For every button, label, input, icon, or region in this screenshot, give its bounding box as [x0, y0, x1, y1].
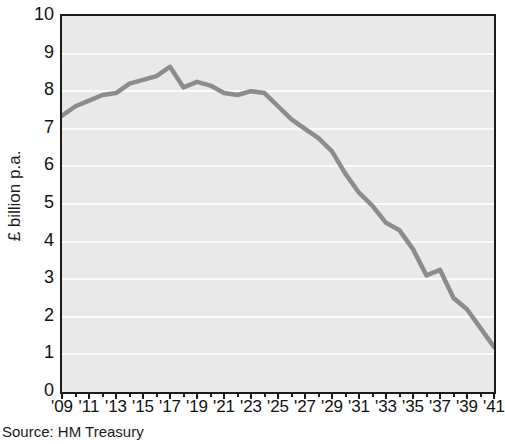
source-note: Source: HM Treasury — [2, 423, 144, 440]
x-tick-mark — [183, 392, 185, 397]
y-tick-label: 8 — [28, 80, 54, 98]
x-tick-mark — [75, 392, 77, 397]
x-tick-mark — [426, 392, 428, 397]
x-axis-ticklabels: '09'11'13'15'17'19'21'23'25'27'29'31'33'… — [0, 398, 503, 422]
x-tick-label: '27 — [294, 398, 316, 415]
x-tick-mark — [318, 392, 320, 397]
y-tick-label: 9 — [28, 43, 54, 61]
x-tick-label: '29 — [321, 398, 343, 415]
x-tick-mark — [291, 392, 293, 397]
x-tick-mark — [102, 392, 104, 397]
x-tick-mark — [453, 392, 455, 397]
x-tick-label: '37 — [429, 398, 451, 415]
y-tick-label: 5 — [28, 193, 54, 211]
x-tick-mark — [237, 392, 239, 397]
x-tick-label: '09 — [51, 398, 73, 415]
x-tick-mark — [480, 392, 482, 397]
x-tick-label: '31 — [348, 398, 370, 415]
x-tick-mark — [210, 392, 212, 397]
x-tick-label: '33 — [375, 398, 397, 415]
x-tick-mark — [264, 392, 266, 397]
x-tick-label: '23 — [240, 398, 262, 415]
x-tick-label: '41 — [483, 398, 505, 415]
x-tick-mark — [372, 392, 374, 397]
x-tick-mark — [345, 392, 347, 397]
x-tick-label: '19 — [186, 398, 208, 415]
x-tick-label: '13 — [105, 398, 127, 415]
x-tick-label: '17 — [159, 398, 181, 415]
x-tick-label: '11 — [79, 398, 100, 415]
plot-inner — [62, 16, 494, 392]
y-tick-label: 6 — [28, 155, 54, 173]
line-series — [62, 16, 494, 392]
plot-area — [60, 14, 496, 394]
x-tick-mark — [399, 392, 401, 397]
y-tick-label: 2 — [28, 306, 54, 324]
x-tick-label: '35 — [402, 398, 424, 415]
y-tick-label: 4 — [28, 231, 54, 249]
y-tick-label: 7 — [28, 118, 54, 136]
x-tick-label: '25 — [267, 398, 289, 415]
y-tick-label: 3 — [28, 268, 54, 286]
x-tick-mark — [156, 392, 158, 397]
y-axis-ticks: 012345678910 — [24, 0, 54, 400]
y-axis-label-text: £ billion p.a. — [5, 151, 25, 242]
x-tick-label: '21 — [213, 398, 235, 415]
x-tick-label: '39 — [456, 398, 478, 415]
y-tick-label: 10 — [28, 5, 54, 23]
x-tick-mark — [129, 392, 131, 397]
y-tick-label: 1 — [28, 343, 54, 361]
x-tick-label: '15 — [132, 398, 154, 415]
